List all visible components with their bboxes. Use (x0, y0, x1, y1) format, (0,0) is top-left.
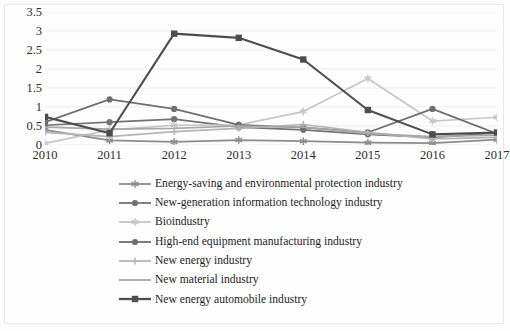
data-point-marker (429, 131, 435, 137)
line-chart-svg (45, 12, 497, 145)
legend-marker-star-icon (118, 216, 152, 228)
data-point-marker (106, 96, 112, 102)
legend-label: New-generation information technology in… (155, 197, 383, 209)
legend-marker-circle-icon (118, 197, 152, 209)
legend-marker-square-icon (118, 293, 152, 305)
legend-label: New material industry (155, 274, 259, 286)
y-axis-tick-label: 1 (4, 101, 42, 114)
y-axis: 00.511.522.533.5 (0, 12, 42, 145)
data-point-marker (365, 107, 371, 113)
legend-item-5[interactable]: New energy industry (118, 251, 418, 270)
legend-marker-asterisk-icon (118, 178, 152, 190)
x-axis-tick-label: 2017 (485, 148, 510, 163)
legend-item-7[interactable]: New energy automobile industry (118, 290, 418, 309)
x-axis-tick-label: 2015 (355, 148, 380, 163)
data-point-marker (171, 116, 177, 122)
legend-item-4[interactable]: High-end equipment manufacturing industr… (118, 232, 418, 251)
data-point-marker (171, 30, 177, 36)
data-point-marker (236, 35, 242, 41)
x-axis-tick-label: 2013 (226, 148, 251, 163)
legend-marker-plus-icon (118, 255, 152, 267)
legend-label: Bioindustry (155, 216, 210, 228)
data-point-marker (171, 106, 177, 112)
x-axis-tick-label: 2016 (420, 148, 445, 163)
data-point-marker (45, 114, 48, 120)
data-point-marker (106, 130, 112, 136)
data-point-marker (132, 238, 138, 244)
data-point-marker (494, 129, 497, 135)
x-axis-tick-label: 2014 (291, 148, 316, 163)
legend-label: Energy-saving and environmental protecti… (155, 178, 403, 190)
data-point-marker (106, 119, 112, 125)
y-axis-tick-label: 2.5 (4, 44, 42, 57)
chart-legend: Energy-saving and environmental protecti… (118, 174, 418, 309)
x-axis-tick-label: 2010 (33, 148, 58, 163)
x-axis-tick-label: 2011 (97, 148, 122, 163)
legend-item-1[interactable]: Energy-saving and environmental protecti… (118, 174, 418, 193)
data-point-marker (429, 106, 435, 112)
x-axis: 20102011201220132014201520162017 (45, 148, 497, 168)
legend-label: High-end equipment manufacturing industr… (155, 236, 362, 248)
legend-marker-none-icon (118, 274, 152, 286)
legend-label: New energy industry (155, 255, 252, 267)
y-axis-tick-label: 3.5 (4, 6, 42, 19)
legend-marker-circle-icon (118, 236, 152, 248)
legend-item-6[interactable]: New material industry (118, 270, 418, 289)
y-axis-tick-label: 1.5 (4, 82, 42, 95)
legend-label: New energy automobile industry (155, 294, 307, 306)
x-axis-tick-label: 2012 (162, 148, 187, 163)
series-4 (45, 96, 497, 136)
data-point-marker (132, 200, 138, 206)
legend-item-3[interactable]: Bioindustry (118, 213, 418, 232)
plot-area (45, 12, 497, 145)
y-axis-tick-label: 3 (4, 25, 42, 38)
data-point-marker (132, 296, 138, 302)
legend-item-2[interactable]: New-generation information technology in… (118, 193, 418, 212)
data-point-marker (300, 56, 306, 62)
y-axis-tick-label: 0.5 (4, 120, 42, 133)
chart-figure: 00.511.522.533.5 20102011201220132014201… (0, 0, 510, 331)
y-axis-tick-label: 2 (4, 63, 42, 76)
